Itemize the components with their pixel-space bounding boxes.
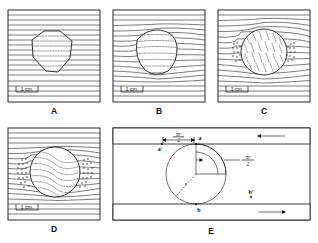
figure-svg: 1 cm. A <box>0 0 318 243</box>
panel-e-label-b-prime: b' <box>248 189 253 195</box>
panel-e-top-arc-denominator: 2 <box>177 137 180 143</box>
panel-c-inclusion <box>241 29 287 75</box>
figure-root: 1 cm. A <box>0 0 318 243</box>
panel-a-letter: A <box>51 106 57 116</box>
panel-d: 1 cm. D <box>8 128 100 234</box>
panel-d-inclusion <box>30 147 80 197</box>
panel-e-right-arc-denominator: 2 <box>247 161 250 167</box>
panel-c-letter: C <box>261 106 267 116</box>
panel-e: r πr 2 πr 2 <box>113 128 310 236</box>
panel-e-label-a-prime: a' <box>158 146 163 152</box>
panel-b-scale-label: 1 cm. <box>126 86 139 92</box>
panel-a: 1 cm. A <box>8 10 100 116</box>
panel-b-letter: B <box>156 106 162 116</box>
panel-e-letter: E <box>208 226 214 236</box>
panel-d-letter: D <box>51 224 57 234</box>
panel-b: 1 cm. B <box>113 10 205 116</box>
panel-d-scale-label: 1 cm. <box>21 204 34 210</box>
panel-e-label-a: a <box>199 135 202 141</box>
panel-c: 1 cm. C <box>218 10 310 116</box>
panel-c-scale-label: 1 cm. <box>231 86 244 92</box>
panel-a-scale-label: 1 cm. <box>21 86 34 92</box>
panel-b-inclusion <box>136 30 177 74</box>
